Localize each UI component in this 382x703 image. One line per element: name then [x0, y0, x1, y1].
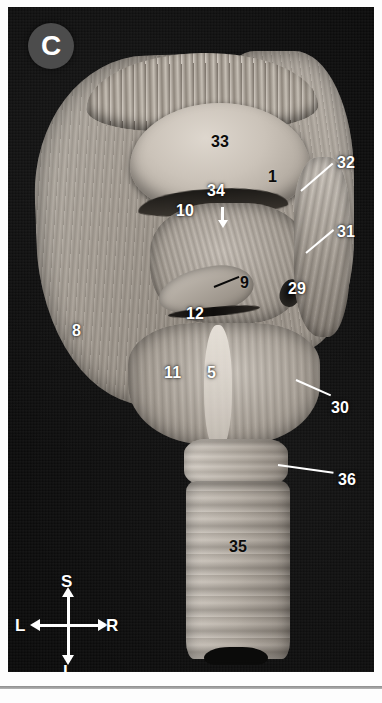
figure-page: C 33 1 32 34 10 31 9 29 12 8 11 5 30 36 …: [0, 0, 382, 703]
specimen-label-9: 9: [240, 275, 249, 291]
specimen-label-5: 5: [207, 365, 216, 381]
compass-label-superior: S: [61, 573, 72, 590]
specimen-label-36: 36: [338, 472, 356, 488]
specimen-label-11: 11: [164, 365, 181, 381]
specimen-label-33: 33: [211, 134, 229, 150]
compass-arrowhead-left: [30, 619, 40, 631]
specimen-label-12: 12: [186, 306, 204, 322]
panel-badge: C: [28, 23, 74, 69]
trachea: [186, 481, 290, 659]
specimen-label-8: 8: [72, 323, 81, 339]
compass-label-right: R: [106, 617, 118, 634]
compass-label-inferior: I: [63, 663, 68, 672]
specimen-label-34: 34: [207, 183, 225, 199]
specimen-label-10: 10: [176, 203, 194, 219]
cricoid-band: [184, 439, 288, 487]
specimen-label-32: 32: [337, 155, 355, 171]
specimen-label-29: 29: [288, 281, 306, 297]
panel-badge-letter: C: [41, 32, 61, 60]
midline-raphe: [204, 325, 232, 451]
compass-label-left: L: [15, 617, 25, 634]
specimen-photograph: C 33 1 32 34 10 31 9 29 12 8 11 5 30 36 …: [8, 7, 374, 672]
specimen-label-30: 30: [331, 400, 349, 416]
compass-horizontal-axis: [38, 624, 100, 627]
page-rule-divider: [0, 686, 382, 689]
lateral-tissue-strip-right: [294, 157, 350, 337]
specimen-label-1: 1: [268, 169, 277, 185]
trachea-distal-notch: [204, 647, 268, 665]
specimen-label-31: 31: [337, 224, 355, 240]
orientation-compass: S I L R: [30, 587, 108, 665]
specimen-label-35: 35: [229, 539, 247, 555]
arrow-down-icon-34: [221, 207, 224, 223]
